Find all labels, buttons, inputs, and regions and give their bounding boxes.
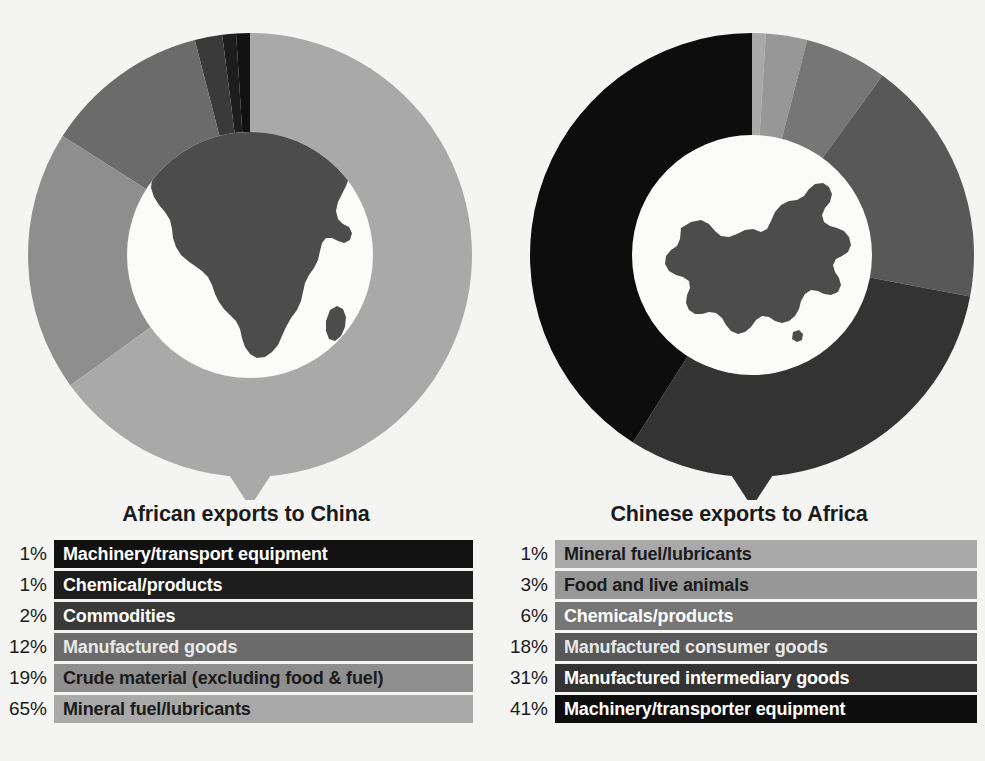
legend-swatch-label: Manufactured goods: [54, 633, 473, 661]
legend-swatch-label: Mineral fuel/lubricants: [54, 695, 473, 723]
donut-chart-chinese-exports: [493, 0, 985, 500]
legend-swatch-label: Crude material (excluding food & fuel): [54, 664, 473, 692]
donut-svg-left: [0, 0, 492, 500]
legend-right: 1%Mineral fuel/lubricants3%Food and live…: [493, 540, 985, 726]
legend-row[interactable]: 65%Mineral fuel/lubricants: [0, 695, 492, 723]
panel-title-right: Chinese exports to Africa: [493, 502, 985, 527]
donut-pointer-tail-left: [220, 461, 280, 500]
legend-percentage: 65%: [0, 695, 54, 723]
legend-percentage: 18%: [493, 633, 555, 661]
legend-row[interactable]: 12%Manufactured goods: [0, 633, 492, 661]
legend-left: 1%Machinery/transport equipment1%Chemica…: [0, 540, 492, 726]
panel-african-exports-to-china: African exports to China 1%Machinery/tra…: [0, 0, 492, 761]
legend-swatch-label: Mineral fuel/lubricants: [555, 540, 977, 568]
legend-row[interactable]: 2%Commodities: [0, 602, 492, 630]
legend-swatch-label: Food and live animals: [555, 571, 977, 599]
donut-chart-african-exports: [0, 0, 492, 500]
legend-row[interactable]: 31%Manufactured intermediary goods: [493, 664, 985, 692]
legend-percentage: 41%: [493, 695, 555, 723]
legend-row[interactable]: 3%Food and live animals: [493, 571, 985, 599]
legend-percentage: 12%: [0, 633, 54, 661]
legend-swatch-label: Chemicals/products: [555, 602, 977, 630]
legend-percentage: 1%: [0, 571, 54, 599]
panel-title-left: African exports to China: [0, 502, 492, 527]
legend-row[interactable]: 18%Manufactured consumer goods: [493, 633, 985, 661]
legend-row[interactable]: 6%Chemicals/products: [493, 602, 985, 630]
legend-percentage: 6%: [493, 602, 555, 630]
legend-row[interactable]: 41%Machinery/transporter equipment: [493, 695, 985, 723]
donut-svg-right: [493, 0, 985, 500]
legend-row[interactable]: 1%Mineral fuel/lubricants: [493, 540, 985, 568]
legend-percentage: 19%: [0, 664, 54, 692]
legend-row[interactable]: 1%Machinery/transport equipment: [0, 540, 492, 568]
infographic-stage: African exports to China 1%Machinery/tra…: [0, 0, 985, 761]
panel-chinese-exports-to-africa: Chinese exports to Africa 1%Mineral fuel…: [493, 0, 985, 761]
legend-swatch-label: Machinery/transport equipment: [54, 540, 473, 568]
legend-row[interactable]: 19%Crude material (excluding food & fuel…: [0, 664, 492, 692]
legend-percentage: 2%: [0, 602, 54, 630]
legend-swatch-label: Manufactured consumer goods: [555, 633, 977, 661]
legend-swatch-label: Machinery/transporter equipment: [555, 695, 977, 723]
donut-pointer-tail-right: [722, 461, 782, 500]
legend-row[interactable]: 1%Chemical/products: [0, 571, 492, 599]
legend-percentage: 1%: [493, 540, 555, 568]
legend-percentage: 3%: [493, 571, 555, 599]
legend-swatch-label: Manufactured intermediary goods: [555, 664, 977, 692]
legend-swatch-label: Commodities: [54, 602, 473, 630]
legend-percentage: 1%: [0, 540, 54, 568]
legend-swatch-label: Chemical/products: [54, 571, 473, 599]
legend-percentage: 31%: [493, 664, 555, 692]
